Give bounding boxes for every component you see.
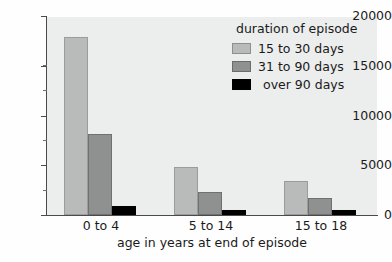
bar-chart: 20000 15000 10000 5000 0 0 to 4 5 to 14 … [0, 0, 392, 262]
x-tick-label-2: 15 to 18 [261, 219, 381, 232]
legend: duration of episode 15 to 30 days 31 to … [232, 22, 357, 94]
legend-item-15-to-30-days: 15 to 30 days [232, 40, 357, 57]
bar-group [64, 17, 136, 215]
bar [88, 134, 112, 215]
bar [332, 210, 356, 215]
legend-label-15-to-30-days: 15 to 30 days [258, 42, 344, 55]
legend-item-31-to-90-days: 31 to 90 days [232, 58, 357, 75]
bar [174, 167, 198, 215]
y-tick-0 [41, 215, 47, 216]
legend-title: duration of episode [236, 22, 357, 36]
x-axis-title: age in years at end of episode [47, 236, 377, 249]
bar [308, 198, 332, 215]
legend-label-over-90-days: over 90 days [258, 78, 344, 91]
bar [198, 192, 222, 215]
x-axis-line [46, 215, 378, 216]
bar [64, 37, 88, 215]
legend-swatch-over-90-days [232, 79, 251, 90]
x-tick-label-0: 0 to 4 [41, 219, 161, 232]
legend-swatch-31-to-90-days [232, 61, 251, 72]
legend-swatch-15-to-30-days [232, 43, 251, 54]
x-tick-label-1: 5 to 14 [151, 219, 271, 232]
bar [112, 206, 136, 215]
legend-item-over-90-days: over 90 days [232, 76, 357, 93]
bar [222, 210, 246, 215]
bar [284, 181, 308, 215]
legend-label-31-to-90-days: 31 to 90 days [258, 60, 344, 73]
